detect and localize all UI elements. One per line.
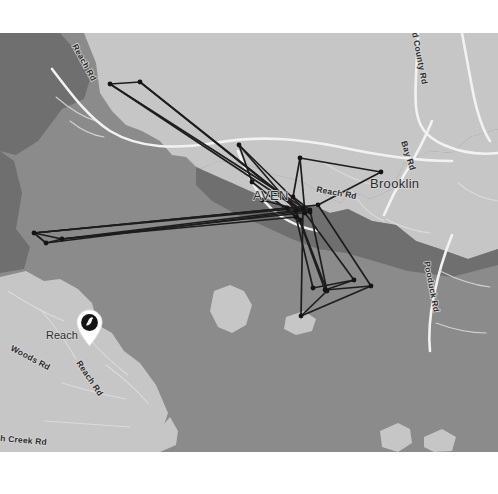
place-brooklin: Brooklin (370, 176, 419, 191)
track-node[interactable] (291, 195, 296, 200)
track-node[interactable] (108, 82, 113, 87)
track-node[interactable] (316, 203, 321, 208)
track-node[interactable] (303, 211, 308, 216)
map-canvas[interactable]: Reach Rdd County RdBay RdReach RdPooduck… (0, 33, 498, 452)
bottom-margin (0, 452, 498, 494)
track-node[interactable] (308, 210, 313, 215)
top-margin (0, 0, 498, 33)
track-node[interactable] (60, 237, 65, 242)
track-node[interactable] (298, 156, 303, 161)
track-node[interactable] (379, 170, 384, 175)
track-node[interactable] (301, 206, 306, 211)
track-node[interactable] (44, 241, 49, 246)
map-svg[interactable]: Reach Rdd County RdBay RdReach RdPooduck… (0, 33, 498, 452)
track-node[interactable] (250, 180, 255, 185)
track-node[interactable] (294, 209, 299, 214)
track-node[interactable] (352, 278, 357, 283)
track-node[interactable] (294, 215, 299, 220)
track-node[interactable] (325, 289, 330, 294)
track-node[interactable] (285, 206, 290, 211)
screenshot-root: Reach Rdd County RdBay RdReach RdPooduck… (0, 0, 498, 494)
track-node[interactable] (138, 80, 143, 85)
track-node[interactable] (237, 143, 242, 148)
place-reach: Reach (46, 329, 78, 341)
track-node[interactable] (299, 314, 304, 319)
location-pin[interactable] (75, 309, 104, 347)
track-node[interactable] (369, 284, 374, 289)
place-haven: AVEN (253, 188, 289, 203)
track-node[interactable] (298, 218, 303, 223)
track-node[interactable] (32, 231, 37, 236)
track-node[interactable] (311, 286, 316, 291)
